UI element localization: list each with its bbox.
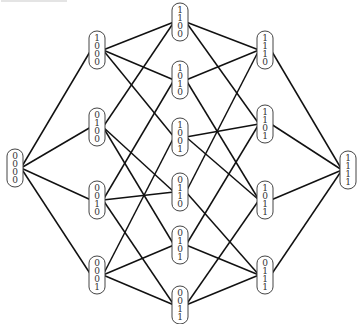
edge-1001-1101 [186, 124, 259, 137]
edge-1110-1111 [271, 50, 342, 170]
edge-1000-1100 [103, 22, 174, 50]
bit-label: 1 [177, 312, 183, 322]
bit-label: 0 [94, 207, 100, 217]
node-1101: 1101 [257, 105, 273, 143]
boolean-lattice-diagram: 0000100001000010000111001010100101100101… [0, 0, 362, 324]
edge-0010-0110 [103, 192, 174, 200]
bit-label: 1 [262, 131, 268, 141]
node-0110: 0110 [172, 173, 188, 211]
bit-label: 0 [177, 29, 183, 39]
edge-1010-1110 [186, 50, 259, 80]
node-0111: 0111 [257, 256, 273, 294]
edge-0110-0111 [186, 192, 259, 275]
node-1100: 1100 [172, 3, 188, 41]
nodes-layer: 0000100001000010000111001010100101100101… [7, 3, 356, 324]
edge-0001-0101 [103, 245, 174, 275]
bit-label: 0 [177, 87, 183, 97]
node-0011: 0011 [172, 286, 188, 324]
node-0100: 0100 [89, 108, 105, 146]
edge-1101-1111 [271, 124, 342, 170]
bit-label: 1 [345, 177, 351, 187]
node-1000: 1000 [89, 31, 105, 69]
node-1110: 1110 [257, 31, 273, 69]
node-0101: 0101 [172, 226, 188, 264]
edge-0000-0100 [21, 127, 91, 168]
bit-label: 1 [262, 207, 268, 217]
node-1111: 1111 [340, 151, 356, 189]
node-1001: 1001 [172, 118, 188, 156]
node-0000: 0000 [7, 149, 23, 187]
bit-label: 0 [12, 175, 18, 185]
bit-label: 1 [177, 144, 183, 154]
bit-label: 1 [94, 282, 100, 292]
edge-1100-1110 [186, 22, 259, 50]
edge-0100-1100 [103, 22, 174, 127]
edge-1001-1011 [186, 137, 259, 200]
bit-label: 0 [177, 199, 183, 209]
edge-0110-1110 [186, 50, 259, 192]
node-1011: 1011 [257, 181, 273, 219]
node-0001: 0001 [89, 256, 105, 294]
edge-0000-1000 [21, 50, 91, 168]
edge-1000-1001 [103, 50, 174, 137]
edge-0101-1101 [186, 124, 259, 245]
edge-1100-1101 [186, 22, 259, 124]
bit-label: 1 [262, 282, 268, 292]
bit-label: 0 [94, 57, 100, 67]
node-0010: 0010 [89, 181, 105, 219]
bit-label: 0 [94, 134, 100, 144]
edge-0001-1001 [103, 137, 174, 275]
bit-label: 1 [177, 252, 183, 262]
edge-1010-1011 [186, 80, 259, 200]
bit-label: 0 [262, 57, 268, 67]
node-1010: 1010 [172, 61, 188, 99]
edge-0100-0101 [103, 127, 174, 245]
edge-0101-0111 [186, 245, 259, 275]
